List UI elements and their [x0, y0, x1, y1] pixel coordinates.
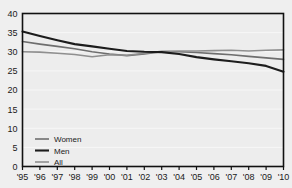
- x-tick-label: '06: [208, 172, 220, 182]
- x-tick-label: '10: [278, 172, 290, 182]
- x-tick-label: '07: [225, 172, 237, 182]
- x-tick-label: '08: [243, 172, 255, 182]
- x-tick-label: '98: [69, 172, 81, 182]
- x-tick-label: '09: [260, 172, 272, 182]
- x-tick-label: '95: [17, 172, 29, 182]
- x-tick-label: '03: [156, 172, 168, 182]
- x-tick-label: '02: [138, 172, 150, 182]
- legend-label-men: Men: [54, 147, 70, 156]
- y-tick-label: 30: [7, 47, 17, 57]
- x-tick-label: '97: [51, 172, 63, 182]
- y-tick-label: 5: [12, 143, 17, 153]
- x-tick-label: '99: [86, 172, 98, 182]
- x-tick-label: '04: [173, 172, 185, 182]
- y-tick-label: 35: [7, 28, 17, 38]
- x-tick-label: '05: [191, 172, 203, 182]
- y-tick-label: 15: [7, 105, 17, 115]
- y-tick-label: 0: [12, 162, 17, 172]
- y-tick-label: 40: [7, 9, 17, 19]
- y-tick-label: 20: [7, 85, 17, 95]
- x-tick-label: '96: [34, 172, 46, 182]
- y-tick-label: 10: [7, 124, 17, 134]
- chart-canvas: 0510152025303540'95'96'97'98'99'00'01'02…: [0, 0, 292, 188]
- line-chart: 0510152025303540'95'96'97'98'99'00'01'02…: [0, 0, 292, 188]
- x-tick-label: '00: [104, 172, 116, 182]
- x-tick-label: '01: [121, 172, 133, 182]
- legend-label-all: All: [54, 158, 63, 167]
- legend-label-women: Women: [54, 135, 81, 144]
- y-tick-label: 25: [7, 66, 17, 76]
